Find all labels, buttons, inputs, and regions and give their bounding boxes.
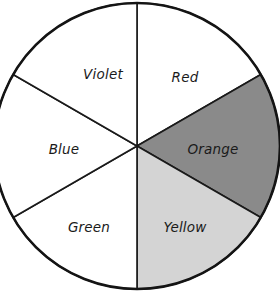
pie-label-green: Green [68, 219, 110, 235]
pie-label-red: Red [172, 69, 199, 85]
pie-label-blue: Blue [49, 141, 80, 157]
pie-label-yellow: Yellow [163, 219, 207, 235]
color-wheel-figure: RedOrangeYellowGreenBlueViolet [0, 0, 280, 304]
pie-label-orange: Orange [187, 141, 238, 157]
color-wheel-svg: RedOrangeYellowGreenBlueViolet [0, 0, 280, 304]
pie-label-violet: Violet [83, 66, 123, 82]
